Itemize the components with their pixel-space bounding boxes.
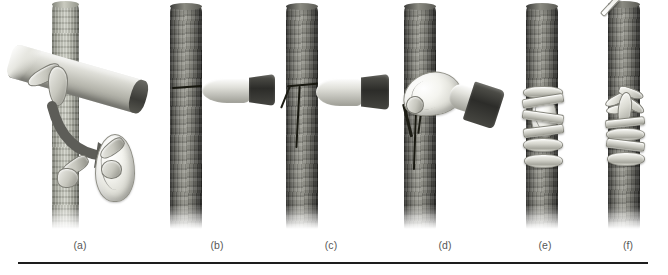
panel-a-caption: (a) — [0, 239, 160, 251]
grafting-knife-c — [316, 70, 390, 114]
panel-a-artwork — [0, 0, 160, 240]
panel-e-caption: (e) — [502, 239, 588, 251]
stem-bottom-fade — [404, 206, 436, 232]
wrap-band-2 — [523, 138, 563, 152]
bud-base-lower — [57, 168, 79, 188]
stem-tip — [526, 3, 558, 10]
rootstock-stem-c — [286, 6, 318, 232]
knife-handle — [249, 74, 275, 106]
rootstock-stem-b — [170, 6, 202, 232]
knife-handle — [361, 74, 389, 110]
figure-bottom-rule — [18, 262, 648, 264]
detached-bud-eye — [101, 160, 122, 179]
panel-e-artwork — [502, 0, 588, 240]
stem-bottom-fade — [52, 206, 79, 232]
panel-d-caption: (d) — [388, 239, 502, 251]
stem-tip — [170, 3, 202, 10]
stem-bottom-fade — [608, 206, 640, 232]
panel-b-caption: (b) — [160, 239, 274, 251]
figure-t-budding-sequence: (a) (b) — [0, 0, 668, 275]
panel-d-artwork — [388, 0, 502, 240]
panel-b-artwork — [160, 0, 274, 240]
stem-bottom-fade — [286, 206, 318, 232]
panel-e: (e) — [502, 0, 588, 240]
wrap-band-f-2 — [607, 152, 645, 166]
wrap-band-3 — [524, 154, 563, 168]
panel-c-artwork — [274, 0, 388, 240]
stem-tip — [52, 1, 79, 8]
panel-c: (c) — [274, 0, 388, 240]
panel-d: (d) — [388, 0, 502, 240]
stem-tip — [286, 3, 318, 10]
stem-bottom-fade — [170, 206, 202, 232]
panel-f-caption: (f) — [588, 239, 668, 251]
panel-b: (b) — [160, 0, 274, 240]
panel-c-caption: (c) — [274, 239, 388, 251]
panel-a: (a) — [0, 0, 160, 240]
knife-blade — [202, 78, 252, 103]
panel-f-artwork — [588, 0, 668, 240]
stem-tip — [404, 3, 436, 10]
knife-blade — [316, 78, 364, 106]
grafting-knife-b — [202, 70, 276, 110]
panel-f: (f) — [588, 0, 668, 240]
stem-bottom-fade — [526, 206, 558, 232]
